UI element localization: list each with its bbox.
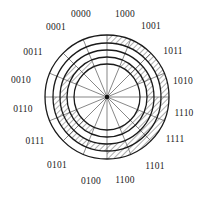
sector-label: 1001	[141, 21, 161, 31]
sector-label: 1000	[115, 9, 135, 19]
sector-label: 0011	[23, 47, 42, 57]
sector-label: 1011	[163, 46, 182, 56]
gray-code-disk	[0, 0, 212, 198]
hatched-bit-cell	[107, 35, 131, 47]
sector-label: 1111	[166, 134, 185, 144]
sector-label: 1101	[145, 161, 164, 171]
hatched-bit-cell	[157, 73, 169, 97]
sector-label: 1110	[174, 108, 193, 118]
sector-label: 0010	[11, 75, 31, 85]
sector-label: 0111	[25, 136, 44, 146]
sector-label: 0100	[81, 176, 101, 186]
sector-label: 0001	[46, 22, 66, 32]
sector-label: 0101	[47, 160, 67, 170]
sector-label: 0000	[71, 9, 91, 19]
sector-label: 1100	[115, 175, 134, 185]
sector-label: 0110	[13, 104, 32, 114]
center-hub	[105, 95, 109, 99]
sector-label: 1010	[173, 76, 193, 86]
